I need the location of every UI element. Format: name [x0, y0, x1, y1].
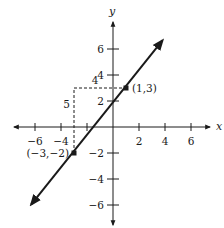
- y-tick-label-2: 2: [97, 95, 104, 107]
- x-tick-label-neg6: −6: [27, 135, 43, 147]
- point-1-3: [124, 86, 129, 91]
- y-tick-label-neg6: −6: [89, 199, 105, 211]
- y-axis-label: y: [108, 5, 116, 18]
- point-label-1-3: (1,3): [132, 82, 157, 94]
- y-tick-label-neg2: −2: [89, 147, 104, 159]
- x-tick-label-4: 4: [162, 135, 169, 147]
- coordinate-plane: −6 −4 2 4 6 6 4 2 −2 −4 −6 x y 5 4 (−3,−…: [0, 0, 224, 228]
- y-tick-label-4: 4: [97, 69, 104, 81]
- rise-label: 5: [63, 98, 70, 110]
- run-label: 4: [92, 74, 99, 86]
- point-label-neg3-neg2: (−3,−2): [27, 147, 70, 159]
- y-tick-label-6: 6: [97, 43, 104, 55]
- x-axis-label: x: [216, 120, 223, 133]
- y-tick-label-neg4: −4: [89, 173, 105, 185]
- x-tick-label-6: 6: [188, 135, 195, 147]
- point-neg3-neg2: [72, 151, 77, 156]
- x-tick-label-neg4: −4: [53, 135, 69, 147]
- x-tick-label-2: 2: [136, 135, 143, 147]
